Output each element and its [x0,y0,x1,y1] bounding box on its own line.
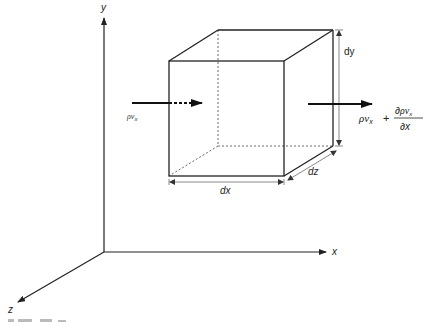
z-axis-label: z [7,304,13,315]
control-volume-diagram: y x z dy dx dz ρvx [0,0,424,322]
svg-text:∂ρvx: ∂ρvx [395,105,413,117]
dimension-lines [169,30,343,185]
dy-label: dy [344,46,355,57]
cube-front-face [169,61,284,176]
dz-label: dz [308,166,319,177]
inflow-label: ρvx [126,112,138,122]
outflow-expression: ρvx + ∂ρvx ∂x [358,105,423,132]
svg-text:ρvx: ρvx [358,112,373,125]
dx-label: dx [220,185,232,196]
y-axis-label: y [100,2,107,13]
z-axis [18,252,104,302]
x-axis-label: x [331,246,338,257]
svg-text:+: + [383,112,389,124]
svg-text:∂x: ∂x [400,121,411,132]
